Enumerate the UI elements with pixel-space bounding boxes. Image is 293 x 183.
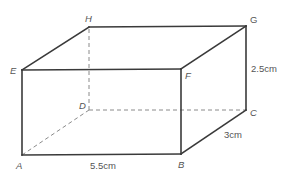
edge-gh [89,26,246,27]
vertex-label-a: A [16,161,22,171]
edge-he [22,27,89,70]
vertex-label-d: D [79,101,86,111]
edge-ab [22,154,181,155]
vertex-label-g: G [250,15,257,25]
vertex-label-c: C [250,108,257,118]
dimension-width-label: 3cm [224,130,242,140]
dimension-length-label: 5.5cm [90,161,116,171]
edge-ad-hidden [22,110,89,155]
vertex-label-f: F [185,71,191,81]
edge-ef [22,69,181,70]
vertex-label-h: H [85,14,92,24]
cuboid-drawing [0,0,293,183]
cuboid-diagram: E H F G D C A B 2.5cm 3cm 5.5cm [0,0,293,183]
vertex-label-b: B [178,160,184,170]
vertex-label-e: E [10,66,16,76]
dimension-height-label: 2.5cm [251,64,277,74]
edge-fg [181,26,246,69]
